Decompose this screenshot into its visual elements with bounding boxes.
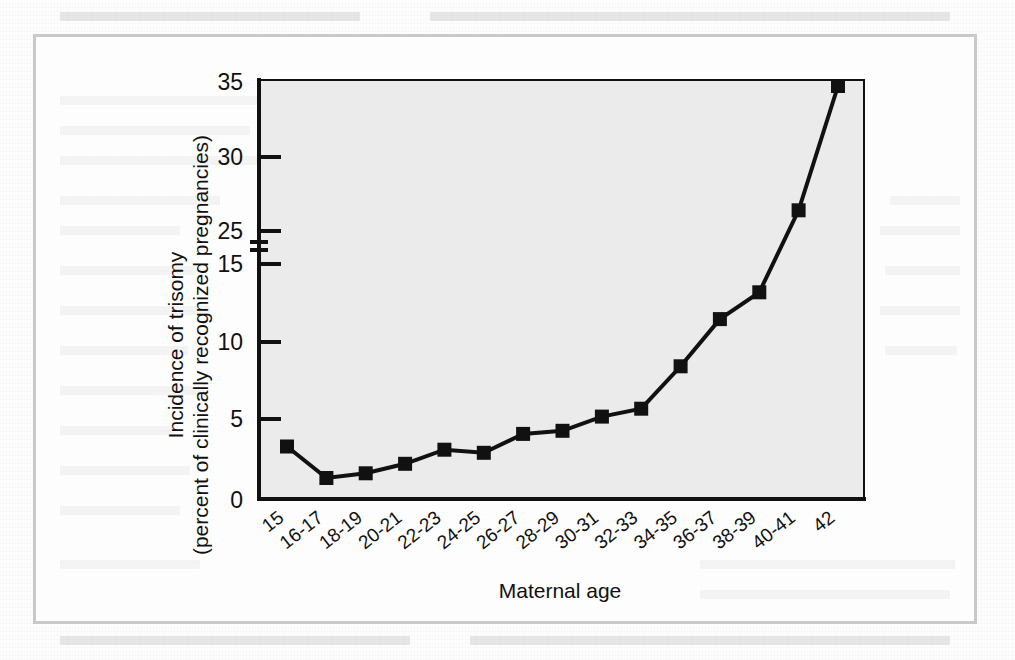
data-point-marker	[595, 410, 609, 424]
x-axis-category-label: 30-31	[551, 507, 602, 553]
data-point-marker	[516, 427, 530, 441]
y-tick-label-25: 25	[217, 218, 243, 244]
x-axis-category-label: 40-41	[748, 507, 799, 553]
x-axis-category-label: 32-33	[590, 507, 641, 553]
data-point-marker	[556, 424, 570, 438]
y-tick-label-10: 10	[217, 329, 243, 355]
x-axis-category-label: 18-19	[315, 507, 366, 553]
x-axis-category-label: 36-37	[669, 507, 720, 553]
x-axis-category-label: 34-35	[630, 507, 681, 553]
y-tick-label-15: 15	[217, 251, 243, 277]
data-point-marker	[437, 443, 451, 457]
y-axis-title-line1: Incidence of trisomy	[164, 251, 187, 438]
x-axis-category-label: 26-27	[472, 507, 523, 553]
x-axis-category-label: 22-23	[394, 507, 445, 553]
y-tick-label-35: 35	[217, 69, 243, 95]
data-point-marker	[713, 312, 727, 326]
x-axis-category-label: 16-17	[276, 507, 327, 553]
data-point-marker	[280, 440, 294, 454]
data-point-marker	[477, 446, 491, 460]
x-axis-category-label: 24-25	[433, 507, 484, 553]
trisomy-incidence-line-chart: 35 30 25 15 10 5 0 Incidence of trisomy …	[0, 0, 1015, 660]
x-axis-category-label: 42	[809, 507, 839, 537]
x-axis-category-labels: 1516-1718-1920-2122-2324-2526-2728-2930-…	[258, 507, 839, 553]
data-point-marker	[319, 471, 333, 485]
data-point-marker	[792, 203, 806, 217]
x-axis-category-label: 20-21	[354, 507, 405, 553]
y-tick-label-30: 30	[217, 144, 243, 170]
x-axis-category-label: 28-29	[512, 507, 563, 553]
data-point-marker	[359, 466, 373, 480]
x-axis-title: Maternal age	[499, 579, 622, 602]
data-point-marker	[634, 402, 648, 416]
data-point-marker	[398, 457, 412, 471]
y-tick-label-0: 0	[230, 487, 243, 513]
y-tick-label-5: 5	[230, 406, 243, 432]
data-point-marker	[674, 359, 688, 373]
x-axis-category-label: 38-39	[709, 507, 760, 553]
scanned-figure-page: 35 30 25 15 10 5 0 Incidence of trisomy …	[0, 0, 1015, 660]
data-point-marker	[752, 285, 766, 299]
y-axis-title-line2: (percent of clinically recognized pregna…	[189, 135, 212, 555]
data-point-marker	[831, 79, 845, 93]
